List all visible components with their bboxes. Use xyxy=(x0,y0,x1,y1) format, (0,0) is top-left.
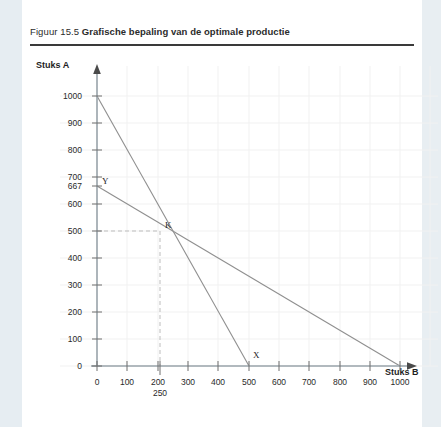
y-tick-label-800: 800 xyxy=(48,145,82,155)
guide-lines xyxy=(97,231,160,366)
x-tick-label-1000: 1000 xyxy=(383,377,417,387)
x-axis-arrow xyxy=(407,362,417,370)
x-tick-label-250: 250 xyxy=(143,388,177,398)
y-tick-label-500: 500 xyxy=(48,226,82,236)
y-tick-label-400: 400 xyxy=(48,253,82,263)
x-tick-label-600: 600 xyxy=(262,377,296,387)
y-tick-label-0: 0 xyxy=(48,361,82,371)
page-background: Figuur 15.5 Grafische bepaling van de op… xyxy=(0,0,441,427)
x-tick-label-700: 700 xyxy=(292,377,326,387)
page-title: Grafische bepaling van de optimale produ… xyxy=(82,26,290,37)
x-tick-label-800: 800 xyxy=(323,377,357,387)
caption-divider xyxy=(30,44,414,46)
series-label-x: X xyxy=(253,350,260,360)
y-tick-label-1000: 1000 xyxy=(48,91,82,101)
x-tick-label-0: 0 xyxy=(80,377,114,387)
x-tick-label-100: 100 xyxy=(110,377,144,387)
y-tick-label-900: 900 xyxy=(48,118,82,128)
y-axis-arrow xyxy=(93,64,101,74)
figure-number: Figuur 15.5 xyxy=(30,26,79,37)
y-tick-label-600: 600 xyxy=(48,199,82,209)
y-tick-label-667: 667 xyxy=(48,181,82,191)
x-tick-label-400: 400 xyxy=(201,377,235,387)
y-tick-label-200: 200 xyxy=(48,307,82,317)
x-tick-label-200: 200 xyxy=(141,377,175,387)
figure-caption: Figuur 15.5 Grafische bepaling van de op… xyxy=(30,26,410,38)
intersection-label-k: K xyxy=(165,220,172,230)
x-tick-label-300: 300 xyxy=(171,377,205,387)
series-label-y: Y xyxy=(102,176,109,186)
x-tick-label-500: 500 xyxy=(232,377,266,387)
y-tick-label-100: 100 xyxy=(48,334,82,344)
chart-area: Stuks A Stuks B xyxy=(0,50,441,427)
x-tick-label-900: 900 xyxy=(353,377,387,387)
y-tick-label-300: 300 xyxy=(48,280,82,290)
